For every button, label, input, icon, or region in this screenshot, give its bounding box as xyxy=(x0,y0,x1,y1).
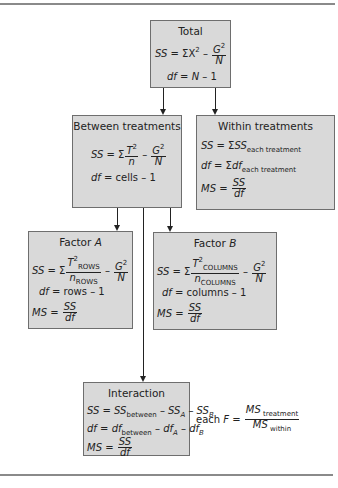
between-title: Between treatments xyxy=(73,120,181,132)
factor-b-title: Factor B xyxy=(154,237,276,249)
connector-total-between xyxy=(163,88,164,109)
interaction-ss-formula: SS = SSbetween – SSA – SSB xyxy=(87,405,214,421)
factor-a-box: Factor A SS = ΣT2ROWSnROWS – G2N df = ro… xyxy=(28,231,133,329)
total-ss-formula: SS = ΣX2 – G2N xyxy=(155,41,227,66)
connector-between-factor-b xyxy=(170,208,171,226)
connector-between-interaction xyxy=(143,208,144,376)
within-treatments-box: Within treatments SS = ΣSSeach treatment… xyxy=(196,115,335,210)
total-df-formula: df = N – 1 xyxy=(167,71,217,83)
bottom-rule xyxy=(0,474,333,476)
factor-b-ms-formula: MS = SSdf xyxy=(157,303,203,324)
factor-a-ss-formula: SS = ΣT2ROWSnROWS – G2N xyxy=(32,254,129,287)
factor-a-ms-formula: MS = SSdf xyxy=(32,302,78,323)
within-ms-formula: MS = SSdf xyxy=(201,178,247,199)
between-treatments-box: Between treatments SS = ΣT2n – G2N df = … xyxy=(72,115,182,208)
factor-b-df-formula: df = columns – 1 xyxy=(162,287,246,299)
factor-a-df-formula: df = rows – 1 xyxy=(39,286,105,298)
top-rule xyxy=(0,3,335,5)
g-squared-over-n: G2N xyxy=(212,41,226,66)
between-df-formula: df = cells – 1 xyxy=(91,172,156,184)
between-ss-formula: SS = ΣT2n – G2N xyxy=(91,142,167,167)
within-ss-formula: SS = ΣSSeach treatment xyxy=(201,140,301,156)
f-ratio-formula: each F = MS treatmentMS within xyxy=(196,405,300,434)
factor-a-title: Factor A xyxy=(29,236,132,248)
connector-between-factor-a xyxy=(117,208,118,225)
total-box: Total SS = ΣX2 – G2N df = N – 1 xyxy=(150,20,231,88)
interaction-ms-formula: MS = SSdf xyxy=(87,437,133,458)
factor-b-box: Factor B SS = ΣT2COLUMNSnCOLUMNS – G2N d… xyxy=(153,232,277,330)
interaction-title: Interaction xyxy=(84,387,189,399)
within-df-formula: df = Σdfeach treatment xyxy=(201,160,296,176)
factor-b-ss-formula: SS = ΣT2COLUMNSnCOLUMNS – G2N xyxy=(157,255,267,288)
total-title: Total xyxy=(151,25,230,37)
interaction-box: Interaction SS = SSbetween – SSA – SSB d… xyxy=(83,382,190,456)
within-title: Within treatments xyxy=(197,120,334,132)
connector-total-within xyxy=(215,88,216,109)
